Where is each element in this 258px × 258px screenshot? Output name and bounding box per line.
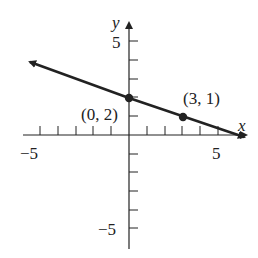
- point-label-0-2: (0, 2): [81, 105, 118, 124]
- y-axis-label: y: [110, 13, 120, 32]
- point-3-1: [179, 113, 187, 121]
- y-tick-label-neg5: −5: [98, 220, 116, 239]
- x-axis-label: x: [237, 116, 246, 135]
- x-tick-label-5: 5: [212, 144, 221, 163]
- point-label-3-1: (3, 1): [183, 89, 220, 108]
- y-tick-label-5: 5: [112, 33, 121, 52]
- coordinate-plane: y x 5 −5 −5 5 (0, 2) (3, 1): [0, 0, 258, 258]
- point-0-2: [125, 94, 133, 102]
- graph-line: [30, 62, 129, 98]
- x-tick-label-neg5: −5: [20, 144, 38, 163]
